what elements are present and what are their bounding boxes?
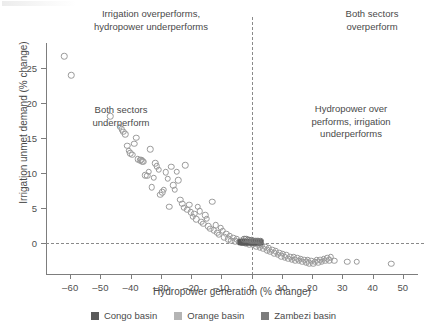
x-tick-mark: [403, 274, 404, 279]
legend-label: Orange basin: [187, 310, 244, 321]
data-point: [107, 113, 114, 120]
legend-label: Congo basin: [104, 310, 157, 321]
data-point: [161, 187, 168, 194]
x-tick-mark: [252, 274, 253, 279]
data-point: [122, 131, 129, 138]
data-point: [172, 187, 179, 194]
legend-swatch-icon: [261, 312, 269, 320]
data-point: [166, 204, 173, 211]
data-point: [155, 166, 162, 173]
data-point: [354, 258, 361, 265]
data-point: [61, 53, 68, 60]
legend-swatch-icon: [174, 312, 182, 320]
data-point: [257, 238, 264, 245]
x-tick-mark: [373, 274, 374, 279]
x-tick-mark: [221, 274, 222, 279]
y-tick-mark: [41, 173, 46, 174]
y-tick-label: 0: [32, 238, 37, 249]
data-point: [209, 199, 216, 206]
plot-area: –60–50–40–30–20–1001020304050 0510152025: [46, 43, 418, 275]
x-tick-mark: [312, 274, 313, 279]
y-tick-label: 5: [32, 203, 37, 214]
y-tick-mark: [41, 103, 46, 104]
annotation-top-left: Irrigation overperforms, hydropower unde…: [62, 8, 240, 33]
data-point: [173, 168, 180, 175]
data-point: [331, 258, 338, 265]
x-tick-mark: [282, 274, 283, 279]
data-point: [149, 184, 156, 191]
y-tick-mark: [41, 68, 46, 69]
x-axis-label: Hydropower generation (% change): [46, 286, 418, 297]
x-axis-spine: [46, 274, 418, 275]
x-tick-mark: [342, 274, 343, 279]
data-point: [175, 177, 182, 184]
legend-item[interactable]: Orange basin: [174, 310, 244, 321]
legend-swatch-icon: [91, 312, 99, 320]
annotation-top-right: Both sectors overperform: [320, 8, 424, 33]
data-point: [131, 140, 138, 147]
chart-legend: Congo basinOrange basinZambezi basin: [0, 310, 427, 321]
x-tick-mark: [70, 274, 71, 279]
data-point: [241, 236, 248, 243]
data-point: [147, 146, 154, 153]
scan-artifact: [2, 1, 76, 6]
legend-label: Zambezi basin: [274, 310, 336, 321]
x-tick-mark: [100, 274, 101, 279]
data-point: [388, 261, 395, 268]
legend-item[interactable]: Congo basin: [91, 310, 157, 321]
y-tick-mark: [41, 138, 46, 139]
y-tick-mark: [41, 208, 46, 209]
data-point: [150, 175, 157, 182]
data-point: [164, 175, 171, 182]
data-point: [203, 216, 210, 223]
x-tick-mark: [161, 274, 162, 279]
data-point: [140, 159, 147, 166]
data-point: [344, 258, 351, 265]
y-axis-spine: [46, 43, 47, 275]
data-point: [145, 168, 152, 175]
x-tick-mark: [191, 274, 192, 279]
x-tick-mark: [131, 274, 132, 279]
legend-item[interactable]: Zambezi basin: [261, 310, 336, 321]
y-axis-label: Irrigation unmet demand (% change): [18, 8, 29, 238]
data-point: [68, 72, 75, 79]
data-point: [186, 201, 193, 208]
data-point: [133, 135, 140, 142]
scatter-chart-figure: Irrigation overperforms, hydropower unde…: [0, 0, 427, 332]
y-tick-mark: [41, 243, 46, 244]
data-point: [182, 162, 189, 169]
